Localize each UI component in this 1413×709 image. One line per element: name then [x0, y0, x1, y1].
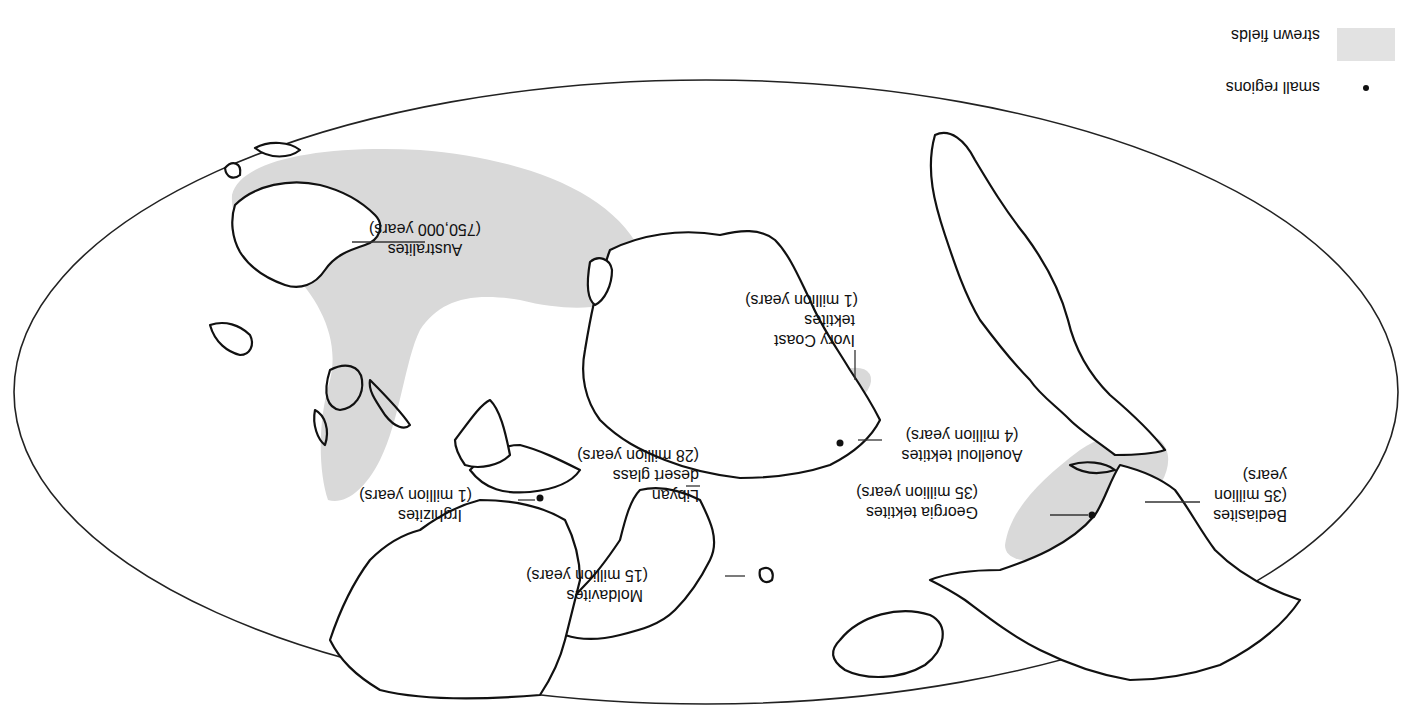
svg-text:small regions: small regions [1226, 79, 1320, 96]
tektite-map: Australites (750,000 years) Ivory Coast … [0, 0, 1413, 709]
aouelloul-dot [837, 440, 844, 447]
svg-text:tektites: tektites [804, 312, 855, 329]
svg-text:desert glass: desert glass [613, 467, 699, 484]
new-zealand-south [225, 163, 240, 177]
svg-text:(1 million years): (1 million years) [359, 487, 472, 504]
irghizites-dot [537, 495, 544, 502]
legend-label-small-regions: small regions [1226, 79, 1320, 96]
mediterranean-island [760, 568, 773, 582]
svg-text:Aouelloul tektites: Aouelloul tektites [902, 447, 1023, 464]
svg-text:years): years) [1243, 467, 1287, 484]
svg-text:Irghizites: Irghizites [398, 507, 462, 524]
legend-label-strewn-fields: strewn fields [1231, 27, 1320, 44]
georgia-dot [1089, 512, 1096, 519]
legend-dot-small-regions [1363, 85, 1369, 91]
svg-text:(4 million years): (4 million years) [906, 427, 1019, 444]
svg-text:(35 million: (35 million [1214, 487, 1287, 504]
legend: strewn fields small regions [1226, 27, 1395, 96]
svg-text:Moldavites: Moldavites [567, 587, 643, 604]
svg-text:Bediasites: Bediasites [1213, 507, 1287, 524]
svg-text:(15 million years): (15 million years) [526, 567, 648, 584]
svg-text:strewn fields: strewn fields [1231, 27, 1320, 44]
svg-text:(1 million years): (1 million years) [745, 292, 858, 309]
svg-text:(28 million years): (28 million years) [577, 447, 699, 464]
svg-text:Georgia tektites: Georgia tektites [866, 504, 978, 521]
svg-text:Australites: Australites [388, 241, 463, 258]
svg-text:(35 million years): (35 million years) [856, 484, 978, 501]
svg-text:Libyan: Libyan [652, 487, 699, 504]
svg-text:Ivory Coast: Ivory Coast [774, 332, 855, 349]
svg-text:(750,000 years): (750,000 years) [369, 221, 481, 238]
legend-swatch-strewn-fields [1337, 28, 1395, 61]
